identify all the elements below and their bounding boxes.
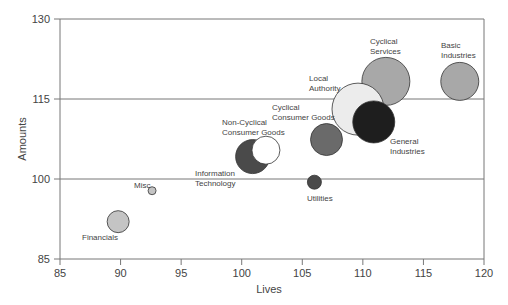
x-axis-label: Lives	[256, 283, 282, 295]
bubble-label: Financials	[82, 233, 118, 242]
x-tick-label: 120	[475, 267, 493, 279]
x-tick-label: 105	[293, 267, 311, 279]
x-tick-label: 85	[54, 267, 66, 279]
bubble-label: CyclicalServices	[370, 37, 401, 56]
bubble-label: Misc	[134, 181, 150, 190]
bubble-utilities	[307, 175, 321, 189]
bubble-general-industries	[353, 101, 395, 143]
bubble-label: CyclicalConsumer Goods	[272, 103, 335, 122]
bubble-chart: 85100115130859095100105110115120 Financi…	[0, 0, 508, 305]
y-tick-label: 100	[32, 173, 50, 185]
y-axis-label: Amounts	[16, 117, 28, 161]
x-tick-label: 115	[415, 267, 433, 279]
bubble-label: InformationTechnology	[195, 169, 235, 188]
bubble-label: Utilities	[307, 194, 333, 203]
x-tick-label: 95	[175, 267, 187, 279]
y-tick-label: 85	[38, 253, 50, 265]
bubble-label: GeneralIndustries	[390, 137, 425, 156]
y-tick-label: 130	[32, 13, 50, 25]
bubble-label: LocalAuthority	[309, 74, 341, 93]
bubble-label: BasicIndustries	[441, 41, 476, 60]
x-tick-label: 110	[354, 267, 372, 279]
bubble-labels: FinancialsMiscInformationTechnologyNon-C…	[82, 37, 476, 242]
bubble-financials	[107, 211, 129, 233]
bubbles	[107, 57, 479, 232]
y-tick-label: 115	[32, 93, 50, 105]
x-tick-label: 90	[114, 267, 126, 279]
bubble-non-cyclical-consumer-goods	[252, 136, 280, 164]
x-tick-label: 100	[233, 267, 251, 279]
bubble-basic-industries	[441, 62, 479, 100]
bubble-cyclical-consumer-goods	[311, 124, 343, 156]
